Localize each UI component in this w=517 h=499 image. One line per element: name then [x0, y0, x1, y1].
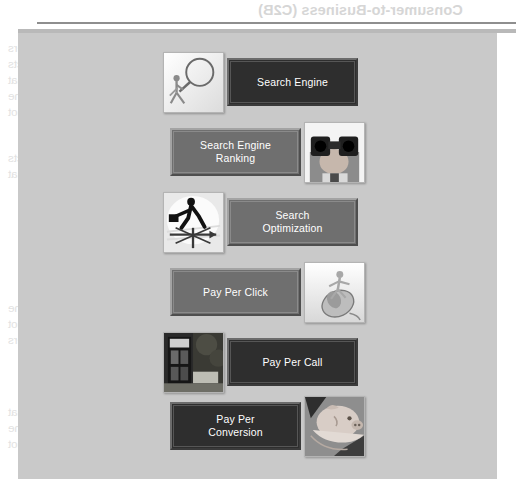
node-button-search-optimization[interactable]: Search Optimization — [227, 198, 358, 246]
node-button-label: Pay Per Conversion — [208, 413, 263, 439]
node-button-search-engine[interactable]: Search Engine — [227, 58, 358, 106]
node-button-label: Search Engine Ranking — [200, 139, 271, 165]
diagram-row: Pay Per Conversion — [165, 395, 365, 457]
diagram-row: Pay Per Call — [163, 331, 363, 393]
node-button-label: Pay Per Call — [262, 356, 322, 369]
phone-booth-thumbnail — [163, 332, 224, 393]
diagram-rows: Search Engine Search Engine Ranking — [0, 0, 517, 499]
magnifying-glass-figure-thumbnail — [163, 52, 224, 113]
diagram-row: Search Optimization — [163, 191, 363, 253]
binoculars-thumbnail — [304, 122, 365, 183]
diagram-row: Search Engine Ranking — [165, 121, 365, 183]
node-button-label: Search Optimization — [262, 209, 322, 235]
node-button-pay-per-call[interactable]: Pay Per Call — [227, 338, 358, 386]
piggy-bank-thumbnail — [304, 396, 365, 457]
computer-mouse-figure-thumbnail — [304, 262, 365, 323]
node-button-pay-per-conversion[interactable]: Pay Per Conversion — [170, 402, 301, 450]
node-button-pay-per-click[interactable]: Pay Per Click — [170, 268, 301, 316]
weathervane-businessman-thumbnail — [163, 192, 224, 253]
node-button-label: Search Engine — [257, 76, 328, 89]
diagram-row: Search Engine — [163, 51, 363, 113]
node-button-search-engine-ranking[interactable]: Search Engine Ranking — [170, 128, 301, 176]
diagram-row: Pay Per Click — [165, 261, 365, 323]
node-button-label: Pay Per Click — [203, 286, 268, 299]
